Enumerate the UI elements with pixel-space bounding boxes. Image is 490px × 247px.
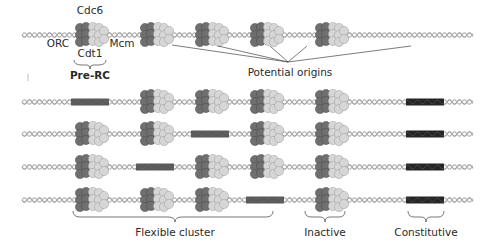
mcm-subunit (339, 133, 348, 142)
inactive-brace (305, 211, 345, 222)
label-inactive: Inactive (304, 226, 346, 238)
mcm-subunit (219, 34, 228, 43)
label-mcm: Mcm (109, 37, 134, 49)
dna-row-cell-1 (22, 89, 473, 113)
label-flexible-cluster: Flexible cluster (135, 226, 215, 238)
mcm-subunit (164, 133, 173, 142)
mcm-subunit (164, 101, 173, 110)
pre-rc-complex (195, 89, 228, 113)
mcm-subunit (339, 166, 348, 175)
pre-rc-complex (140, 22, 173, 46)
pre-rc-complex (75, 187, 108, 211)
label-cdc6: Cdc6 (77, 4, 104, 16)
constitutive-brace (408, 211, 444, 222)
pre-rc-complex (250, 22, 283, 46)
label-pre-rc: Pre-RC (70, 69, 110, 81)
pre-rc-complex (315, 89, 348, 113)
pre-rc-complex (250, 154, 283, 178)
pre-rc-complex (195, 187, 228, 211)
pre-rc-complex (195, 154, 228, 178)
pre-rc-complex (75, 22, 108, 46)
mcm-subunit (164, 34, 173, 43)
label-orc: ORC (47, 37, 69, 49)
pre-rc-complex (140, 121, 173, 145)
mcm-subunit (219, 101, 228, 110)
label-potential-origins: Potential origins (248, 66, 333, 78)
label-cdt1: Cdt1 (78, 47, 103, 59)
pre-rc-complex (315, 187, 348, 211)
pointer-line (218, 46, 288, 62)
pointer-line (288, 46, 411, 62)
pre-rc-complex (250, 121, 283, 145)
pre-rc-complex (250, 89, 283, 113)
mcm-subunit (274, 133, 283, 142)
pre-rc-complex (75, 121, 108, 145)
pre-rc-complex (315, 22, 348, 46)
pointer-line (172, 45, 288, 62)
pre-rc-complex (75, 154, 108, 178)
dna-row-cell-2 (22, 121, 473, 145)
dna-row-cell-4 (22, 187, 473, 211)
mcm-subunit (274, 34, 283, 43)
pre-rc-complex (315, 154, 348, 178)
potential-origins-pointers (172, 45, 411, 62)
mcm-subunit (339, 101, 348, 110)
mcm-subunit (99, 199, 108, 208)
pre-rc-complex (315, 121, 348, 145)
label-constitutive: Constitutive (394, 226, 457, 238)
replication-origins-diagram: Cdc6 ORC Mcm Cdt1 Pre-RC Potential origi… (0, 0, 490, 247)
mcm-subunit (274, 101, 283, 110)
mcm-subunit (274, 166, 283, 175)
mcm-subunit (99, 34, 108, 43)
pre-rc-complex (140, 187, 173, 211)
mcm-subunit (164, 199, 173, 208)
mcm-subunit (339, 34, 348, 43)
dna-row-cell-3 (22, 154, 473, 178)
dna-row-licensed-state (22, 22, 473, 46)
mcm-subunit (99, 133, 108, 142)
flexible-cluster-brace (73, 211, 273, 222)
mcm-subunit (219, 166, 228, 175)
pre-rc-brace (74, 60, 106, 69)
pre-rc-complex (140, 89, 173, 113)
mcm-subunit (99, 166, 108, 175)
mcm-subunit (339, 199, 348, 208)
pre-rc-complex (195, 22, 228, 46)
mcm-subunit (219, 199, 228, 208)
